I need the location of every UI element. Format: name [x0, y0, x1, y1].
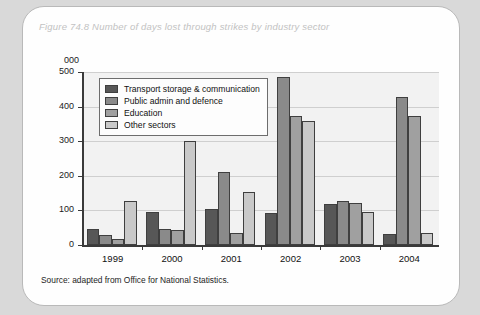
y-tick-label: 400 — [34, 102, 74, 111]
bar — [184, 141, 197, 245]
bar-chart: 000 0100200300400500 1999200020012002200… — [35, 55, 445, 277]
y-tick-label: 100 — [34, 205, 74, 214]
legend-item: Transport storage & communication — [105, 83, 260, 95]
bar — [349, 203, 362, 245]
bar — [302, 121, 315, 245]
x-tick-label: 2002 — [280, 253, 301, 264]
bar — [383, 234, 396, 245]
x-tick-mark — [320, 245, 321, 250]
x-tick-label: 2001 — [221, 253, 242, 264]
bar — [87, 229, 100, 245]
x-tick-mark — [380, 245, 381, 250]
bar — [408, 116, 421, 245]
x-tick-label: 2004 — [399, 253, 420, 264]
x-tick-mark — [142, 245, 143, 250]
legend-label: Public admin and defence — [124, 97, 223, 106]
legend-item: Public admin and defence — [105, 95, 260, 107]
x-tick-label: 2000 — [161, 253, 182, 264]
legend-label: Transport storage & communication — [124, 85, 260, 94]
bar — [362, 212, 375, 245]
x-tick-mark — [202, 245, 203, 250]
figure-page: Figure 74.8 Number of days lost through … — [0, 0, 480, 315]
x-tick-label: 1999 — [102, 253, 123, 264]
bar — [99, 235, 112, 245]
y-tick-label: 500 — [34, 67, 74, 76]
x-tick-label: 2003 — [339, 253, 360, 264]
legend-swatch — [105, 97, 118, 105]
legend-swatch — [105, 85, 118, 93]
source-note: Source: adapted from Office for National… — [41, 275, 229, 285]
figure-card: Figure 74.8 Number of days lost through … — [22, 6, 460, 306]
y-tick-label: 0 — [34, 240, 74, 249]
y-axis-unit-label: 000 — [35, 55, 79, 65]
bar — [124, 201, 137, 245]
bar — [159, 229, 172, 245]
bar — [171, 230, 184, 245]
legend-item: Other sectors — [105, 119, 260, 131]
legend-label: Other sectors — [124, 121, 176, 130]
plot-area: 0100200300400500 19992000200120022003200… — [83, 72, 439, 248]
bar — [146, 212, 159, 245]
bar — [324, 204, 337, 245]
chart-legend: Transport storage & communicationPublic … — [99, 78, 268, 136]
bar — [112, 239, 125, 245]
bar — [205, 209, 218, 245]
bar — [218, 172, 231, 245]
bar — [265, 213, 278, 245]
bar — [243, 192, 256, 245]
bar — [230, 233, 243, 245]
bar — [396, 97, 409, 245]
bar — [421, 233, 434, 245]
bar — [337, 201, 350, 245]
legend-swatch — [105, 121, 118, 129]
y-tick-label: 200 — [34, 171, 74, 180]
bar — [277, 77, 290, 246]
legend-item: Education — [105, 107, 260, 119]
bar — [290, 116, 303, 245]
legend-swatch — [105, 109, 118, 117]
legend-label: Education — [124, 109, 162, 118]
y-tick-label: 300 — [34, 136, 74, 145]
figure-title: Figure 74.8 Number of days lost through … — [39, 21, 329, 32]
x-tick-mark — [261, 245, 262, 250]
